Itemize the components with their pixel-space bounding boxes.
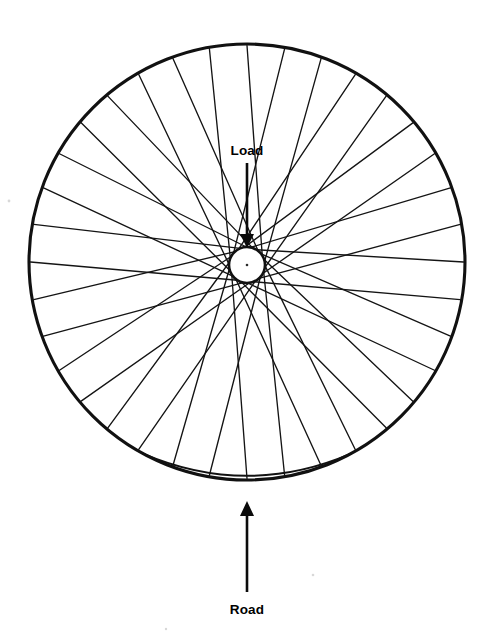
load-label: Load xyxy=(230,143,263,158)
paper-speck xyxy=(312,574,315,577)
hub-center-point xyxy=(246,264,249,267)
paper-speck xyxy=(8,200,11,203)
paper-speck xyxy=(165,628,167,630)
bicycle-wheel-diagram: Load Road xyxy=(0,0,494,642)
wheel-diagram-canvas: Load Road xyxy=(0,0,494,642)
road-label: Road xyxy=(230,602,265,617)
